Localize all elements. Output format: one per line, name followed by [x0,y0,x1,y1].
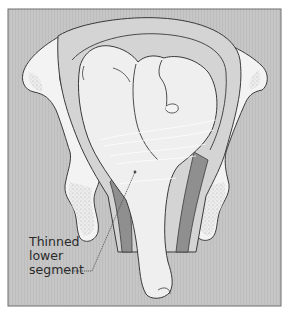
label-line-3: segment [29,262,84,277]
label-line-1: Thinned [28,234,80,249]
label-line-2: lower [29,248,64,263]
diagram-figure: Thinned lower segment [0,0,289,322]
